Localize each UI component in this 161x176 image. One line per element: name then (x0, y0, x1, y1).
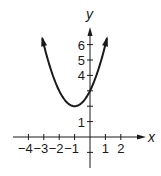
curve-arrow-right-icon (102, 36, 108, 46)
y-tick-label: 4 (78, 68, 85, 83)
curve-arrow-left-icon (41, 36, 47, 46)
tick-labels: −4−3−2−1121456 (18, 38, 124, 156)
parabola-graph: x y −4−3−2−1121456 (0, 0, 161, 176)
x-axis-label: x (147, 129, 156, 145)
axis-ticks (28, 45, 120, 153)
x-tick-label: −3 (33, 141, 48, 156)
y-tick-label: 6 (78, 38, 85, 53)
y-axis-arrow-icon (88, 27, 93, 36)
y-tick-label: 5 (78, 53, 85, 68)
y-axis-label: y (85, 6, 94, 22)
y-tick-label: 1 (78, 115, 85, 130)
x-axis-arrow-icon (137, 135, 146, 140)
x-tick-label: 1 (102, 141, 109, 156)
x-tick-label: −4 (18, 141, 33, 156)
x-tick-label: −1 (64, 141, 79, 156)
x-tick-label: −2 (49, 141, 64, 156)
parabola-curve (41, 36, 108, 106)
x-tick-label: 2 (117, 141, 124, 156)
